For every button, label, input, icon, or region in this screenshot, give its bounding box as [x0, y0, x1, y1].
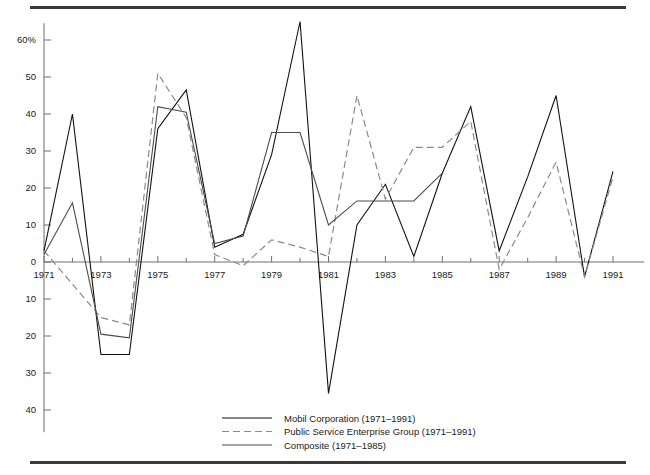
y-tick-label-10: 10	[25, 293, 36, 304]
y-tick-label-40: 40	[25, 404, 36, 415]
y-tick-label-20: 20	[25, 330, 36, 341]
y-tick-label-30: 30	[25, 145, 36, 156]
y-axis: 60%5040302010010203040	[17, 23, 51, 432]
x-tick-label-1973: 1973	[90, 269, 111, 280]
x-tick-label-1971: 1971	[33, 269, 54, 280]
x-tick-label-1987: 1987	[489, 269, 510, 280]
series-group	[44, 22, 613, 394]
x-tick-label-1975: 1975	[147, 269, 168, 280]
x-tick-label-1977: 1977	[204, 269, 225, 280]
x-tick-label-1981: 1981	[318, 269, 339, 280]
chart-page: 60%5040302010010203040 19711973197519771…	[0, 0, 650, 475]
y-tick-label-40: 40	[25, 108, 36, 119]
legend-label-0: Mobil Corporation (1971–1991)	[284, 413, 416, 424]
series-line-2	[44, 107, 442, 338]
x-tick-label-1983: 1983	[375, 269, 396, 280]
x-tick-label-1979: 1979	[261, 269, 282, 280]
y-tick-label-20: 20	[25, 182, 36, 193]
y-tick-label-10: 10	[25, 219, 36, 230]
x-axis: 1971197319751977197919811983198519871989…	[33, 256, 644, 280]
y-tick-label-60%: 60%	[17, 34, 37, 45]
x-axis-ticks	[44, 256, 613, 262]
y-tick-label-50: 50	[25, 71, 36, 82]
x-axis-tick-labels: 1971197319751977197919811983198519871989…	[33, 269, 623, 280]
legend-label-2: Composite (1971–1985)	[284, 440, 386, 451]
y-axis-tick-labels: 60%5040302010010203040	[17, 34, 37, 415]
x-tick-label-1989: 1989	[546, 269, 567, 280]
line-chart: 60%5040302010010203040 19711973197519771…	[0, 0, 650, 475]
x-tick-label-1991: 1991	[602, 269, 623, 280]
series-line-1	[44, 73, 613, 325]
y-tick-label-30: 30	[25, 367, 36, 378]
y-axis-ticks	[44, 40, 51, 410]
x-tick-label-1985: 1985	[432, 269, 453, 280]
y-tick-label-0: 0	[31, 256, 36, 267]
chart-legend: Mobil Corporation (1971–1991)Public Serv…	[222, 413, 476, 451]
legend-label-1: Public Service Enterprise Group (1971–19…	[284, 426, 476, 437]
